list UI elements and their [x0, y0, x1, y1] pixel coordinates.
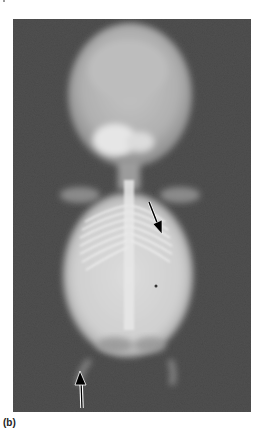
corner-mark [3, 0, 5, 2]
panel-label: (b) [3, 417, 16, 428]
skull-region [68, 23, 192, 167]
radiograph-image [13, 19, 251, 412]
